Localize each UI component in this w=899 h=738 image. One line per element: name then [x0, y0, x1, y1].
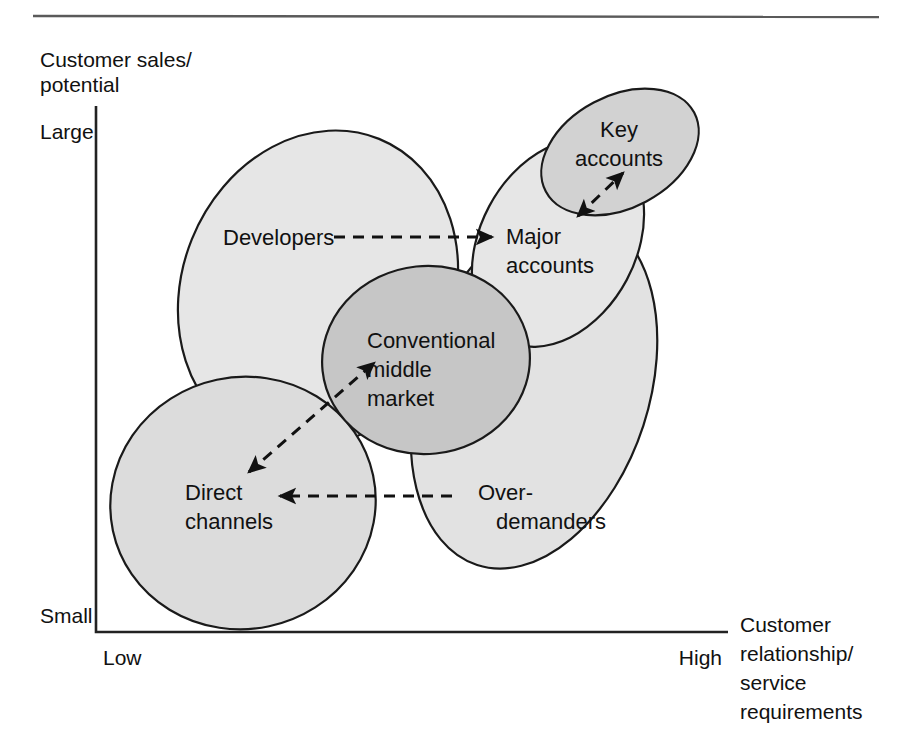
- segmentation-matrix-figure: Customer sales/ potential Large Small Lo…: [0, 0, 899, 738]
- x-axis-title-line2: relationship/: [740, 642, 853, 665]
- y-axis-tick-large: Large: [40, 120, 94, 143]
- label-key-accounts-line1: Key: [600, 117, 638, 142]
- label-conventional-middle-market-line1: Conventional: [367, 328, 495, 353]
- x-axis-title-line3: service: [740, 671, 807, 694]
- top-divider-rule: [33, 16, 879, 17]
- label-major-accounts-line2: accounts: [506, 253, 594, 278]
- label-conventional-middle-market-line2: middle: [367, 357, 432, 382]
- x-axis-tick-low: Low: [103, 646, 142, 669]
- x-axis-title-line4: requirements: [740, 700, 863, 723]
- label-key-accounts-line2: accounts: [575, 146, 663, 171]
- y-axis-title-line2: potential: [40, 73, 119, 96]
- label-major-accounts-line1: Major: [506, 224, 561, 249]
- label-over-demanders-line2: demanders: [496, 509, 606, 534]
- label-direct-channels-line1: Direct: [185, 480, 242, 505]
- figure-page: Customer sales/ potential Large Small Lo…: [0, 0, 899, 738]
- label-conventional-middle-market-line3: market: [367, 386, 434, 411]
- label-over-demanders-line1: Over-: [478, 480, 533, 505]
- x-axis-tick-high: High: [679, 646, 722, 669]
- label-developers: Developers: [223, 225, 334, 250]
- y-axis-tick-small: Small: [40, 604, 93, 627]
- y-axis-title-line1: Customer sales/: [40, 48, 192, 71]
- label-direct-channels-line2: channels: [185, 509, 273, 534]
- x-axis-title-line1: Customer: [740, 613, 831, 636]
